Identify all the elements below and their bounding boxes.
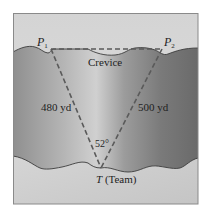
side-length-500-label: 500 yd bbox=[138, 102, 168, 113]
point-p2-label: P2 bbox=[164, 36, 175, 50]
p2-subscript: 2 bbox=[171, 42, 175, 50]
p1-subscript: 1 bbox=[44, 42, 48, 50]
team-point-label: T (Team) bbox=[96, 174, 136, 185]
side-length-480-label: 480 yd bbox=[41, 102, 71, 113]
crevice-triangle-diagram: P1 P2 Crevice 480 yd 500 yd 52° T (Team) bbox=[0, 0, 208, 217]
angle-52-label: 52° bbox=[95, 139, 109, 149]
team-suffix: (Team) bbox=[102, 173, 136, 185]
crevice-label: Crevice bbox=[88, 57, 122, 68]
point-p1-label: P1 bbox=[37, 36, 48, 50]
